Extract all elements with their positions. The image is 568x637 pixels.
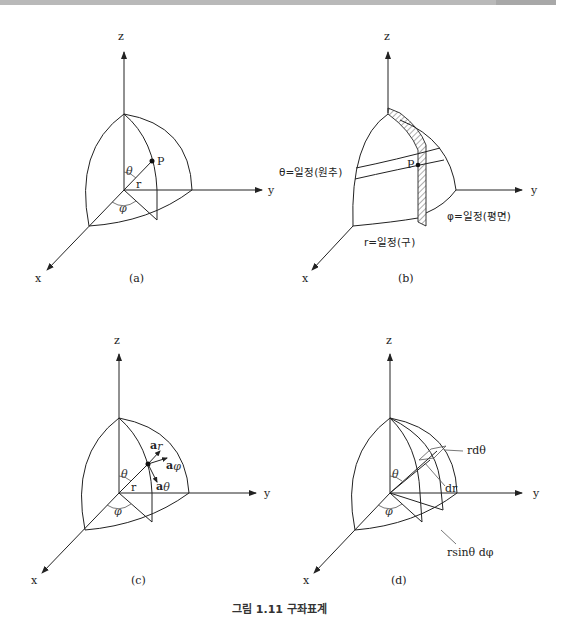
- point-p: [150, 159, 155, 164]
- r-constant-label: r=일정(구): [364, 236, 415, 248]
- phi-label: φ: [114, 505, 122, 518]
- point-p-label: P: [407, 158, 415, 171]
- spherical-coordinates-figure: z y x P θ r φ (a) z y x P θ=일정(원추) φ=일정(…: [0, 0, 568, 637]
- rsindphi-label: rsinθ dφ: [447, 546, 494, 559]
- theta-label: θ: [126, 165, 133, 178]
- phi-label: φ: [385, 505, 393, 518]
- x-label: x: [302, 272, 309, 285]
- dr-label: dr: [445, 482, 458, 495]
- unit-vector-r-label: ar: [150, 439, 163, 453]
- y-label: y: [267, 184, 275, 197]
- figure-d-label: (d): [391, 574, 407, 587]
- z-label: z: [114, 334, 120, 347]
- point-p-label: P: [157, 155, 165, 168]
- point-p: [416, 163, 421, 168]
- z-label: z: [118, 30, 124, 43]
- unit-vector-phi-label: aφ: [166, 459, 181, 473]
- projection-line-2: [390, 493, 443, 510]
- figure-c: z y x ar aφ aθ θ r φ (c): [31, 334, 271, 587]
- radius-label: r: [136, 178, 142, 191]
- yz-arc: [124, 114, 192, 190]
- cone-band-top: [356, 148, 440, 168]
- volume-element: [419, 446, 446, 460]
- xy-arc-left: [353, 218, 418, 226]
- rdtheta-leader: [445, 450, 463, 451]
- phi-constant-label: φ=일정(평면): [447, 210, 511, 222]
- figure-d: z y x θ φ rdθ dr rsinθ dφ (d): [303, 334, 540, 587]
- figure-caption: 그림 1.11 구좌표계: [232, 602, 327, 616]
- theta-label: θ: [392, 468, 399, 481]
- xz-arc: [353, 114, 388, 226]
- figure-c-label: (c): [131, 574, 146, 587]
- x-axis: [312, 226, 353, 270]
- point-p: [146, 462, 151, 467]
- figure-b: z y x P θ=일정(원추) φ=일정(평면) r=일정(구) (b): [279, 30, 538, 285]
- cone-band-bottom: [355, 160, 444, 179]
- unit-vector-theta-label: aθ: [156, 480, 170, 494]
- x-label: x: [35, 272, 42, 285]
- phi-label: φ: [119, 202, 127, 215]
- figure-a: z y x P θ r φ (a): [35, 30, 275, 285]
- x-label: x: [31, 574, 38, 587]
- y-label: y: [263, 487, 271, 500]
- rdtheta-label: rdθ: [467, 444, 486, 457]
- xy-arc: [89, 190, 192, 226]
- x-label: x: [303, 574, 310, 587]
- z-label: z: [384, 30, 390, 43]
- dr-leader: [424, 462, 445, 486]
- theta-constant-label: θ=일정(원추): [279, 166, 342, 178]
- figure-a-label: (a): [129, 272, 144, 285]
- radius-label: r: [131, 481, 137, 494]
- z-label: z: [386, 334, 392, 347]
- y-label: y: [532, 487, 540, 500]
- figure-b-label: (b): [398, 272, 414, 285]
- theta-label: θ: [121, 468, 128, 481]
- meridian-2: [390, 418, 443, 510]
- rsindphi-leader: [441, 530, 456, 544]
- y-label: y: [530, 184, 538, 197]
